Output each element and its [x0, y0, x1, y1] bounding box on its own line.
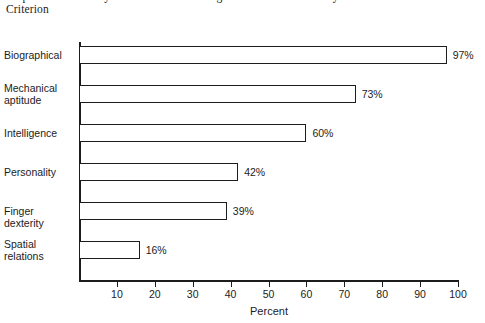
x-axis-tick-label: 40	[216, 288, 246, 300]
category-label-line: Spatial	[4, 238, 76, 250]
x-axis-tick-label: 80	[367, 288, 397, 300]
x-axis-tick-label: 50	[254, 288, 284, 300]
x-axis-title: Percent	[79, 305, 459, 317]
x-axis-tick	[458, 282, 459, 287]
category-label-line: Biographical	[4, 49, 76, 61]
bar	[79, 241, 140, 259]
x-axis-tick	[306, 282, 307, 287]
category-label-line: Intelligence	[4, 127, 76, 139]
category-label: Personality	[4, 166, 76, 178]
category-label: Mechanicalaptitude	[4, 82, 76, 106]
plot-area: 102030405060708090100 97%73%60%42%39%16%…	[0, 0, 485, 323]
x-axis-tick-label: 10	[102, 288, 132, 300]
x-axis-tick-label: 90	[405, 288, 435, 300]
bar-value-label: 73%	[362, 85, 383, 103]
bar	[79, 124, 306, 142]
x-axis-tick	[117, 282, 118, 287]
x-axis-tick	[269, 282, 270, 287]
category-label: Finger dexterity	[4, 205, 76, 229]
x-axis-tick	[155, 282, 156, 287]
x-axis-tick	[344, 282, 345, 287]
bar-value-label: 42%	[244, 163, 265, 181]
x-axis-tick	[193, 282, 194, 287]
category-label: Spatialrelations	[4, 238, 76, 262]
x-axis-tick-label: 60	[291, 288, 321, 300]
bar-value-label: 97%	[453, 46, 474, 64]
category-label-line: Mechanical	[4, 82, 76, 94]
x-axis-tick	[420, 282, 421, 287]
category-label-line: Finger dexterity	[4, 205, 76, 229]
category-label-line: relations	[4, 250, 76, 262]
bar-value-label: 39%	[233, 202, 254, 220]
x-axis-tick	[231, 282, 232, 287]
x-axis-tick-label: 20	[140, 288, 170, 300]
category-label-line: Personality	[4, 166, 76, 178]
category-label: Intelligence	[4, 127, 76, 139]
x-axis-tick-label: 100	[443, 288, 473, 300]
bar	[79, 46, 447, 64]
x-axis-tick-label: 70	[329, 288, 359, 300]
category-label: Biographical	[4, 49, 76, 61]
bar	[79, 202, 227, 220]
x-axis-tick-label: 30	[178, 288, 208, 300]
bar	[79, 163, 238, 181]
bar	[79, 85, 356, 103]
category-label-line: aptitude	[4, 94, 76, 106]
chart-page: Proportion of Validity Coefficients .30 …	[0, 0, 485, 323]
x-axis-tick	[382, 282, 383, 287]
bar-value-label: 16%	[146, 241, 167, 259]
bar-value-label: 60%	[312, 124, 333, 142]
